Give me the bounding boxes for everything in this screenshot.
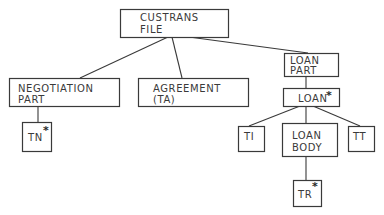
node-loan: LOAN * xyxy=(284,89,340,107)
asterisk-marker: * xyxy=(326,89,332,102)
node-label: LOAN xyxy=(298,93,328,104)
node-label: PART xyxy=(290,65,317,76)
asterisk-marker: * xyxy=(312,180,318,193)
node-label: TR xyxy=(297,189,312,200)
node-loan-body: LOAN BODY xyxy=(283,124,338,157)
node-label: FILE xyxy=(140,24,163,35)
node-ti: TI xyxy=(239,127,265,152)
edge-custrans-agreement xyxy=(172,37,182,78)
edge-custrans-loanpart xyxy=(189,37,308,53)
node-negotiation-part: NEGOTIATION PART xyxy=(10,79,120,107)
node-loan-part: LOAN PART xyxy=(285,54,339,77)
node-label: LOAN xyxy=(292,130,322,141)
node-tn: TN * xyxy=(23,123,52,152)
node-label: TT xyxy=(352,131,367,142)
node-tr: TR * xyxy=(294,180,322,207)
node-agreement: AGREEMENT (TA) xyxy=(139,79,249,107)
node-label: NEGOTIATION xyxy=(18,83,94,94)
node-label: AGREEMENT xyxy=(153,83,221,94)
node-label: TN xyxy=(27,132,43,143)
node-custrans-file: CUSTRANS FILE xyxy=(121,10,229,38)
edge-custrans-negotiation xyxy=(80,37,168,78)
node-tt: TT xyxy=(349,127,375,152)
node-label: CUSTRANS xyxy=(140,12,199,23)
asterisk-marker: * xyxy=(43,124,49,137)
hierarchy-diagram: CUSTRANS FILE NEGOTIATION PART AGREEMENT… xyxy=(0,0,384,215)
node-label: PART xyxy=(18,94,45,105)
node-label: TI xyxy=(243,131,254,142)
node-label: BODY xyxy=(292,142,323,153)
node-label: (TA) xyxy=(153,94,175,105)
